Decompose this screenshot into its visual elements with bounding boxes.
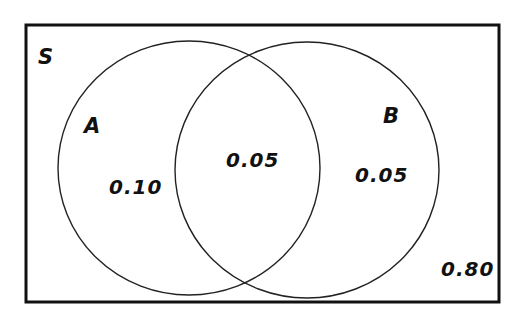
set-b-label: B — [383, 104, 399, 128]
venn-diagram: S A B 0.10 0.05 0.05 0.80 — [0, 0, 530, 336]
region-neither-value: 0.80 — [441, 257, 494, 281]
set-a-circle — [58, 41, 320, 295]
region-a-only-value: 0.10 — [109, 175, 162, 199]
region-a-and-b-value: 0.05 — [226, 148, 279, 172]
set-a-label: A — [82, 114, 100, 138]
region-b-only-value: 0.05 — [355, 163, 408, 187]
universe-label: S — [38, 45, 53, 69]
